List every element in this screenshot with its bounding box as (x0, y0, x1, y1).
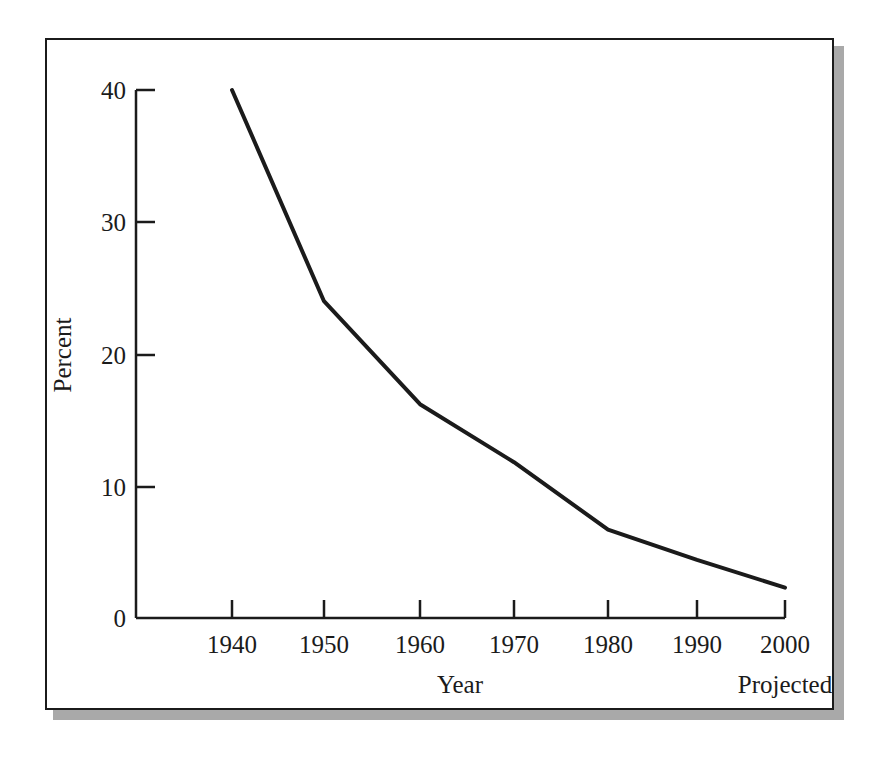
y-tick-label-30: 30 (92, 210, 126, 235)
x-tick-label-1950: 1950 (299, 632, 349, 657)
line-chart: 40 30 20 10 0 1940 1950 1960 1970 1980 1… (0, 0, 887, 757)
y-tick-label-0: 0 (92, 606, 126, 631)
x-tick-label-1980: 1980 (583, 632, 633, 657)
x-tick-label-1960: 1960 (395, 632, 445, 657)
y-axis-label: Percent (50, 318, 75, 393)
x-tick-label-1990: 1990 (672, 632, 722, 657)
x-tick-label-1970: 1970 (489, 632, 539, 657)
y-tick-label-20: 20 (92, 343, 126, 368)
y-tick-label-40: 40 (92, 78, 126, 103)
x-tick-label-1940: 1940 (207, 632, 257, 657)
y-tick-label-10: 10 (92, 475, 126, 500)
projected-annotation: Projected (738, 672, 832, 697)
data-series-line (232, 90, 785, 588)
x-tick-label-2000: 2000 (760, 632, 810, 657)
x-axis-label: Year (437, 672, 483, 697)
